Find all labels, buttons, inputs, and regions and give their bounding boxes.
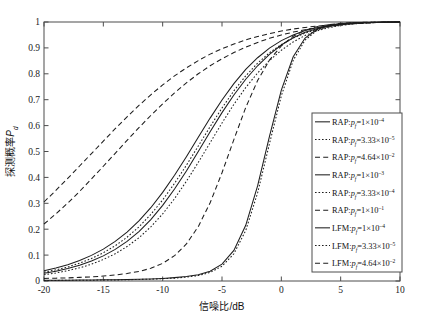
detection-probability-chart: -20-15-10-5051000.10.20.30.40.50.60.70.8… [0, 0, 435, 320]
y-tick-label: 1 [35, 17, 40, 27]
x-tick-label: 0 [279, 285, 284, 295]
y-tick-label: 0.6 [28, 121, 40, 131]
x-tick-label: 10 [395, 285, 405, 295]
figure-root: -20-15-10-5051000.10.20.30.40.50.60.70.8… [0, 0, 435, 320]
y-tick-label: 0.9 [28, 43, 40, 53]
x-tick-label: 5 [338, 285, 343, 295]
y-tick-label: 0.3 [28, 199, 40, 209]
x-tick-label: -10 [156, 285, 169, 295]
y-tick-label: 0.8 [28, 69, 40, 79]
y-tick-label: 0 [35, 276, 40, 286]
legend-layer[interactable]: RAP:pf=1×10–4RAP:pf=3.33×10–5RAP:pf=4.64… [312, 113, 402, 272]
x-axis-label: 信噪比/dB [199, 301, 244, 312]
x-tick-label: -15 [97, 285, 110, 295]
x-tick-label: -5 [218, 285, 226, 295]
y-tick-label: 0.2 [28, 225, 40, 235]
y-tick-label: 0.7 [28, 95, 40, 105]
y-tick-label: 0.5 [28, 147, 40, 157]
y-tick-label: 0.4 [28, 173, 40, 183]
y-tick-label: 0.1 [28, 251, 40, 261]
